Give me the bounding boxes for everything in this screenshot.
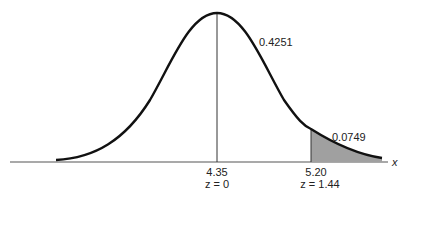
area-center-label: 0.4251	[259, 36, 293, 48]
cutoff-value-label: 5.20	[305, 166, 326, 178]
area-tail-label: 0.0749	[332, 131, 366, 143]
mean-z-label: z = 0	[205, 178, 229, 190]
cutoff-z-label: z = 1.44	[300, 178, 339, 190]
mean-value-label: 4.35	[206, 166, 227, 178]
x-axis-label: x	[392, 156, 398, 168]
